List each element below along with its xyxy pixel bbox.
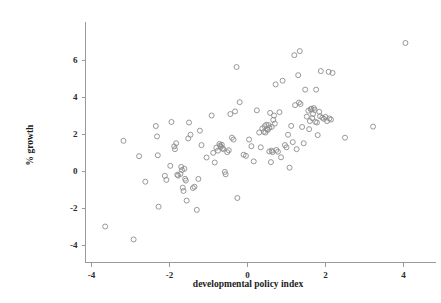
y-axis-tick-label: 6: [73, 55, 78, 65]
y-axis-tick-label: 0: [73, 166, 78, 176]
y-axis-title: % growth: [25, 124, 35, 165]
x-axis-title: developmental policy index: [193, 279, 304, 289]
scatter-plot-figure: -4-2024 -4-20246 developmental policy in…: [0, 0, 441, 303]
x-axis-tick-label: 4: [401, 270, 406, 280]
x-axis-tick-label: -2: [166, 270, 174, 280]
x-axis-tick-label: 2: [323, 270, 328, 280]
y-axis-tick-label: -4: [70, 240, 78, 250]
y-axis-tick-label: 2: [73, 129, 78, 139]
x-axis-tick-label: 0: [245, 270, 250, 280]
chart-canvas: -4-2024 -4-20246 developmental policy in…: [0, 0, 441, 303]
y-axis-tick-label: -2: [70, 203, 78, 213]
y-axis-tick-label: 4: [73, 92, 78, 102]
x-axis-tick-label: -4: [88, 270, 96, 280]
